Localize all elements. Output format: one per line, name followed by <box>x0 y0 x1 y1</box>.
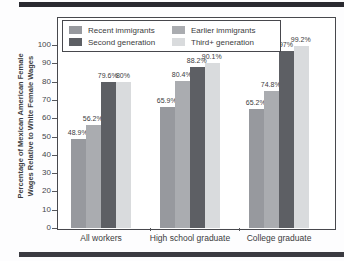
bars-layer: 48.9%56.2%79.6%80%65.9%80.4%88.2%90.1%65… <box>57 45 334 228</box>
figure: Percentage of Mexican American Female Wa… <box>0 0 344 261</box>
bar-value-label: 80.4% <box>172 71 192 79</box>
legend-item: Recent immigrants <box>63 26 166 35</box>
bar-value-label: 56.2% <box>83 115 103 123</box>
legend-item: Third+ generation <box>166 38 280 47</box>
bar-value-label: 90.1% <box>202 53 222 61</box>
bar <box>264 91 279 228</box>
bar-group: 65.9%80.4%88.2%90.1% <box>160 45 220 228</box>
y-tick-label: 20 <box>11 187 51 195</box>
legend-item: Earlier immigrants <box>166 26 280 35</box>
y-tick-mark <box>52 228 57 229</box>
bar-value-label: 99.2% <box>291 36 311 44</box>
bar-column: 80% <box>116 45 131 228</box>
bar-column: 90.1% <box>205 45 220 228</box>
bar <box>86 125 101 228</box>
bar <box>205 63 220 228</box>
x-category-label: High school graduate <box>150 233 230 243</box>
y-tick-label: 50 <box>11 133 51 141</box>
bar-value-label: 65.2% <box>246 99 266 107</box>
legend-label: Second generation <box>88 38 155 47</box>
legend-swatch-icon <box>172 26 185 34</box>
bar <box>279 51 294 229</box>
legend-swatch-icon <box>172 38 185 46</box>
legend-label: Recent immigrants <box>88 26 155 35</box>
y-tick-label: 80 <box>11 78 51 86</box>
bar-value-label: 79.6% <box>98 72 118 80</box>
bar <box>71 139 86 228</box>
bar-column: 74.8% <box>264 45 279 228</box>
bar-value-label: 74.8% <box>261 81 281 89</box>
bar <box>190 67 205 228</box>
bar-column: 65.2% <box>249 45 264 228</box>
legend-item: Second generation <box>63 38 166 47</box>
bottom-rule <box>19 252 344 257</box>
top-rule <box>19 2 344 7</box>
bar-value-label: 80% <box>116 72 130 80</box>
bar-column: 97% <box>279 45 294 228</box>
bar <box>249 109 264 228</box>
bar <box>160 107 175 228</box>
y-tick-label: 60 <box>11 114 51 122</box>
bar-column: 48.9% <box>71 45 86 228</box>
bar-group: 65.2%74.8%97%99.2% <box>249 45 309 228</box>
legend-swatch-icon <box>69 26 82 34</box>
y-tick-label: 40 <box>11 151 51 159</box>
legend-label: Third+ generation <box>191 38 254 47</box>
bar-column: 88.2% <box>190 45 205 228</box>
bar-column: 80.4% <box>175 45 190 228</box>
bar-column: 79.6% <box>101 45 116 228</box>
x-category-label: All workers <box>80 233 122 243</box>
bar <box>175 81 190 228</box>
bar-column: 99.2% <box>294 45 309 228</box>
y-tick-label: 30 <box>11 169 51 177</box>
legend-label: Earlier immigrants <box>191 26 255 35</box>
bar-value-label: 48.9% <box>68 129 88 137</box>
y-tick-label: 10 <box>11 206 51 214</box>
bar <box>294 46 309 228</box>
bar-value-label: 65.9% <box>157 97 177 105</box>
x-category-label: College graduate <box>247 233 312 243</box>
y-tick-label: 100 <box>11 41 51 49</box>
category-labels: All workersHigh school graduateCollege g… <box>57 233 334 245</box>
y-tick-label: 0 <box>11 224 51 232</box>
legend: Recent immigrantsEarlier immigrantsSecon… <box>62 20 281 52</box>
y-tick-label: 70 <box>11 96 51 104</box>
bar <box>116 82 131 228</box>
bar <box>101 82 116 228</box>
x-tick-mark <box>150 228 151 231</box>
bar-group: 48.9%56.2%79.6%80% <box>71 45 131 228</box>
y-tick-label: 90 <box>11 59 51 67</box>
legend-swatch-icon <box>69 38 82 46</box>
x-tick-mark <box>239 228 240 231</box>
